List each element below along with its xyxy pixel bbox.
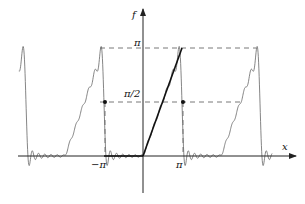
midpoint-at-minus-pi (103, 100, 107, 104)
y-tick-label-half-pi: π/2 (123, 88, 140, 99)
y-axis-label: f (131, 9, 138, 20)
fourier-diagram: x f π π/2 −π π (0, 0, 305, 204)
x-tick-label-minus-pi: −π (91, 159, 106, 170)
reference-lines (100, 48, 256, 156)
midpoint-at-pi (181, 100, 185, 104)
x-tick-label-pi: π (175, 159, 183, 170)
x-axis-label: x (282, 141, 288, 152)
y-tick-label-pi: π (133, 37, 141, 48)
